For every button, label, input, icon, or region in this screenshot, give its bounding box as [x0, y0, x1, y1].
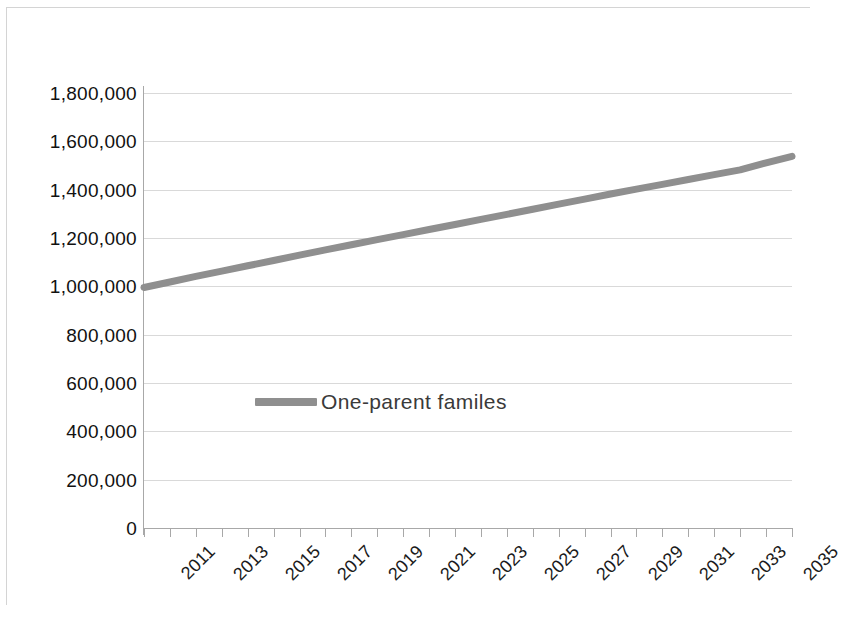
gridline — [144, 431, 792, 432]
gridline — [144, 190, 792, 191]
x-axis-tick-label: 2027 — [593, 542, 635, 584]
gridline — [144, 238, 792, 239]
x-axis-tick — [429, 528, 430, 537]
x-axis-tick — [662, 528, 663, 537]
x-axis-tick — [507, 528, 508, 537]
y-axis-tick-label: 400,000 — [11, 422, 137, 441]
x-axis-tick — [611, 528, 612, 537]
x-axis-tick-label: 2033 — [748, 542, 790, 584]
gridline — [144, 286, 792, 287]
y-axis-tick-label: 600,000 — [11, 374, 137, 393]
gridline — [144, 383, 792, 384]
x-axis-tick-label: 2017 — [333, 542, 375, 584]
gridline — [144, 93, 792, 94]
x-axis-line — [144, 528, 793, 529]
x-axis-tick — [792, 528, 793, 537]
x-axis-tick — [274, 528, 275, 537]
gridline — [144, 480, 792, 481]
x-axis-tick-label: 2023 — [489, 542, 531, 584]
x-axis-tick-label: 2025 — [541, 542, 583, 584]
x-axis-tick — [714, 528, 715, 537]
x-axis-tick — [300, 528, 301, 537]
y-axis-labels: 0200,000400,000600,000800,0001,000,0001,… — [7, 8, 137, 618]
x-axis-tick — [403, 528, 404, 537]
y-axis-tick-label: 1,600,000 — [11, 132, 137, 151]
x-axis-tick — [351, 528, 352, 537]
y-axis-tick-label: 800,000 — [11, 326, 137, 345]
y-axis-tick-label: 1,200,000 — [11, 229, 137, 248]
legend: One-parent familes — [255, 391, 507, 412]
x-axis-tick — [377, 528, 378, 537]
x-axis-tick — [481, 528, 482, 537]
x-axis-tick — [170, 528, 171, 537]
y-axis-tick-label: 0 — [11, 519, 137, 538]
x-axis-tick — [455, 528, 456, 537]
x-axis-tick — [248, 528, 249, 537]
x-axis-tick — [585, 528, 586, 537]
x-axis-tick — [559, 528, 560, 537]
y-axis-tick-label: 200,000 — [11, 471, 137, 490]
x-axis-tick — [636, 528, 637, 537]
y-axis-line — [143, 86, 144, 535]
x-axis-tick-label: 2031 — [696, 542, 738, 584]
x-axis-tick — [325, 528, 326, 537]
x-axis-tick — [533, 528, 534, 537]
legend-label-one-parent-familes: One-parent familes — [321, 391, 507, 412]
x-axis-tick-label: 2029 — [645, 542, 687, 584]
x-axis-tick-label: 2019 — [385, 542, 427, 584]
x-axis-tick — [144, 528, 145, 537]
x-axis-tick — [222, 528, 223, 537]
plot-area — [144, 93, 792, 528]
x-axis-tick-label: 2013 — [230, 542, 272, 584]
x-axis-tick-label: 2015 — [282, 542, 324, 584]
y-axis-tick-label: 1,000,000 — [11, 277, 137, 296]
x-axis-tick — [196, 528, 197, 537]
x-axis-tick-label: 2021 — [437, 542, 479, 584]
legend-swatch-one-parent-familes — [255, 398, 317, 406]
gridline — [144, 335, 792, 336]
chart-frame: 0200,000400,000600,000800,0001,000,0001,… — [6, 7, 810, 605]
x-axis-tick-label: 2011 — [178, 542, 219, 583]
y-axis-tick-label: 1,800,000 — [11, 84, 137, 103]
x-axis-tick — [740, 528, 741, 537]
y-axis-tick-label: 1,400,000 — [11, 181, 137, 200]
x-axis-tick — [766, 528, 767, 537]
x-axis-tick-label: 2035 — [800, 542, 842, 584]
x-axis-tick — [688, 528, 689, 537]
gridline — [144, 141, 792, 142]
